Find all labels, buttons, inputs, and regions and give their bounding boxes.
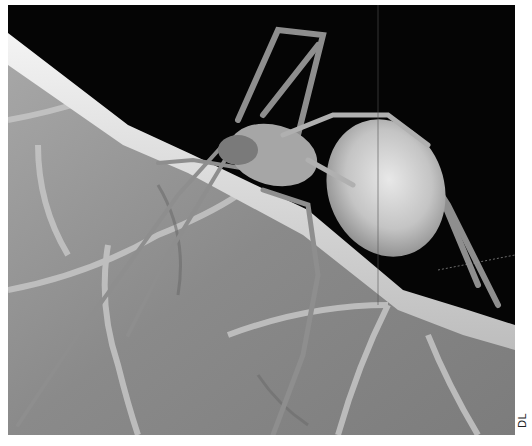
spider-illustration [8,5,515,435]
photo-credit: DL [516,413,528,428]
spider-photo: spider on leaf edge [8,5,515,435]
spider-head [218,135,258,165]
